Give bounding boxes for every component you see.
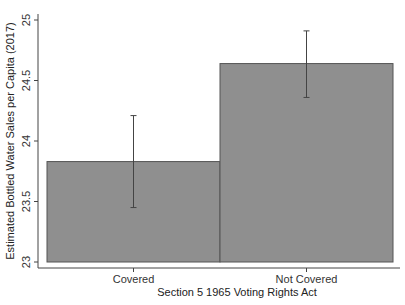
x-tick-label: Not Covered — [276, 273, 338, 285]
y-ticks: 2323.52424.525 — [20, 14, 38, 268]
y-tick-label: 24.5 — [20, 70, 32, 91]
bar-chart: 2323.52424.525 CoveredNot Covered Sectio… — [0, 0, 405, 305]
x-tick-label: Covered — [113, 273, 155, 285]
y-tick-label: 23.5 — [20, 191, 32, 212]
y-axis-title: Estimated Bottled Water Sales per Capita… — [4, 22, 16, 259]
y-tick-label: 24 — [20, 135, 32, 147]
x-axis-title: Section 5 1965 Voting Rights Act — [157, 286, 317, 298]
x-ticks: CoveredNot Covered — [113, 268, 338, 285]
bars — [47, 64, 393, 262]
y-tick-label: 25 — [20, 14, 32, 26]
y-tick-label: 23 — [20, 256, 32, 268]
